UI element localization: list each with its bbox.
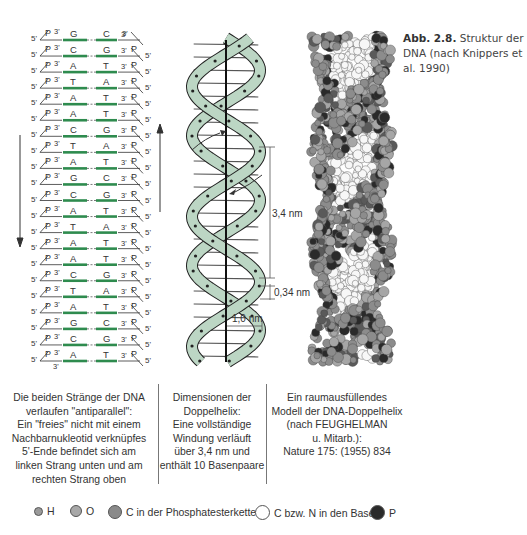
five-prime-label: 5' xyxy=(145,83,151,92)
phosphate-label: P xyxy=(45,140,51,150)
five-prime-label: 5' xyxy=(145,51,151,60)
five-prime-label: 5' xyxy=(31,339,37,348)
base-left: T xyxy=(70,76,76,87)
phosphate-label: P xyxy=(131,253,137,263)
base-right: T xyxy=(103,108,109,119)
phosphate-label: P xyxy=(45,172,51,182)
five-prime-label: 5' xyxy=(145,340,151,349)
five-prime-label: 5' xyxy=(145,324,151,333)
five-prime-label: 5' xyxy=(145,147,151,156)
description-line: rechten Strang oben xyxy=(0,473,158,487)
five-prime-label: 5' xyxy=(145,356,151,365)
three-prime-label: 3' xyxy=(54,171,60,180)
five-prime-label: 5' xyxy=(31,243,37,252)
phosphate-label: P xyxy=(131,189,137,199)
phosphate-label: P xyxy=(131,76,137,86)
phosphate-label: P xyxy=(45,76,51,86)
figure-label: Abb. 2.8. xyxy=(403,32,456,44)
base-pair-row: 5'P3'TA3'P5' xyxy=(31,75,151,93)
three-prime-label: 3' xyxy=(121,303,127,312)
five-prime-label: 5' xyxy=(31,323,37,332)
phosphate-label: P xyxy=(45,269,51,279)
legend-item: C in der Phosphatesterkette xyxy=(108,505,256,519)
phosphate-label: P xyxy=(45,108,51,118)
five-prime-label: 5' xyxy=(31,146,37,155)
five-prime-label: 5' xyxy=(145,99,151,108)
base-left: A xyxy=(70,205,77,216)
base-right: T xyxy=(103,60,109,71)
helix-description: Dimensionen derDoppelhelix:Eine vollstän… xyxy=(158,391,266,473)
five-prime-label: 5' xyxy=(31,211,37,220)
legend-label: C bzw. N in den Basen xyxy=(274,507,380,519)
phosphate-label: P xyxy=(45,349,51,359)
three-prime-label: 3' xyxy=(121,255,127,264)
description-line: enthält 10 Basenpaare xyxy=(158,459,266,473)
three-prime-label: 3' xyxy=(121,174,127,183)
base-left: C xyxy=(70,189,77,200)
three-prime-label: 3' xyxy=(121,351,127,360)
three-prime-label: 3' xyxy=(54,236,60,245)
three-prime-label: 3' xyxy=(121,158,127,167)
legend-label: C in der Phosphatesterkette xyxy=(126,506,256,518)
base-left: C xyxy=(70,269,77,280)
three-prime-label: 3' xyxy=(121,46,127,55)
phosphate-label: P xyxy=(45,221,51,231)
legend-item: H xyxy=(34,505,55,517)
base-right: G xyxy=(103,333,110,344)
phosphate-label: P xyxy=(131,108,137,118)
legend-label: H xyxy=(47,505,55,517)
base-left: C xyxy=(70,124,77,135)
base-right: A xyxy=(103,76,110,87)
base-left: A xyxy=(70,301,77,312)
five-prime-label: 5' xyxy=(145,276,151,285)
phosphate-label: P xyxy=(45,301,51,311)
base-right: A xyxy=(103,285,110,296)
five-prime-label: 5' xyxy=(145,67,151,76)
base-right: G xyxy=(103,269,110,280)
phosphate-label: P xyxy=(131,156,137,166)
base-left: G xyxy=(70,317,77,328)
three-prime-label: 3' xyxy=(54,204,60,213)
three-prime-label: 3' xyxy=(54,155,60,164)
base-pair-row: 5'P3'AT3'P5' xyxy=(31,204,151,222)
model-description: Ein raumausfüllendesModell der DNA-Doppe… xyxy=(266,391,408,459)
five-prime-label: 5' xyxy=(31,355,37,364)
three-prime-label: 3' xyxy=(121,271,127,280)
base-left: A xyxy=(70,237,77,248)
five-prime-label: 5' xyxy=(145,260,151,269)
three-prime-label: 3' xyxy=(121,335,127,344)
phosphate-label: P xyxy=(45,44,51,54)
description-line: Eine vollständige xyxy=(158,418,266,432)
phosphate-label: P xyxy=(45,317,51,327)
three-prime-label: 3' xyxy=(121,62,127,71)
base-pair-row: 5'P3'AT3'P5' xyxy=(31,91,151,109)
base-right: A xyxy=(103,140,110,151)
description-line: Nature 175: (1955) 834 xyxy=(266,445,408,459)
phosphate-label: P xyxy=(131,285,137,295)
atom-dot-icon xyxy=(370,505,385,520)
five-prime-label: 5' xyxy=(145,179,151,188)
five-prime-label: 5' xyxy=(31,34,37,43)
five-prime-label: 5' xyxy=(145,115,151,124)
phosphate-label: P xyxy=(131,301,137,311)
five-prime-label: 5' xyxy=(145,212,151,221)
three-prime-label: 3' xyxy=(54,252,60,261)
phosphate-label: P xyxy=(45,253,51,263)
description-line: Ein "freies" nicht mit einem xyxy=(0,418,158,432)
three-prime-label: 3' xyxy=(54,59,60,68)
base-right: C xyxy=(103,28,110,39)
ladder-description: Die beiden Stränge der DNAverlaufen "ant… xyxy=(0,391,158,486)
legend-item: O xyxy=(70,505,94,517)
base-pair-row: 5'P3'CG3'P5' xyxy=(31,268,151,286)
five-prime-label: 5' xyxy=(31,291,37,300)
base-left: C xyxy=(70,333,77,344)
three-prime-label: 3' xyxy=(121,319,127,328)
phosphate-label: P xyxy=(45,124,51,134)
five-prime-label: 5' xyxy=(145,196,151,205)
phosphate-label: P xyxy=(131,237,137,247)
base-pair-row: 5'P3'GC3'P5' xyxy=(31,316,151,334)
description-line: über 3,4 nm und xyxy=(158,445,266,459)
base-pair-row: 5'P3'TA3'P5' xyxy=(31,139,151,157)
base-right: T xyxy=(103,205,109,216)
base-pair-row: 5'P3'AT3'P5' xyxy=(31,155,151,173)
